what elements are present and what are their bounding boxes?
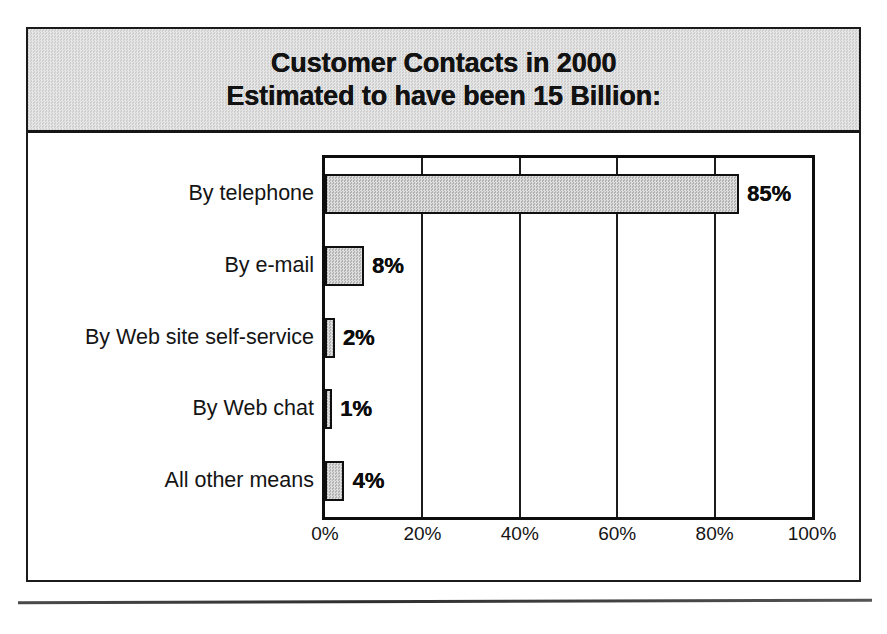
chart-title-line-1: Customer Contacts in 2000 — [271, 47, 617, 80]
page-rule-divider — [18, 599, 872, 605]
bar-value-label: 1% — [340, 398, 372, 420]
figure-frame: Customer Contacts in 2000 Estimated to h… — [26, 27, 861, 582]
bar-value-label: 2% — [343, 327, 375, 349]
chart-title-band: Customer Contacts in 2000 Estimated to h… — [28, 29, 859, 133]
category-label: All other means — [165, 470, 314, 492]
x-tick-label: 80% — [696, 524, 734, 543]
bar — [325, 318, 335, 358]
x-tick-label: 100% — [788, 524, 837, 543]
x-tick-label: 20% — [403, 524, 441, 543]
category-label: By Web site self-service — [85, 327, 314, 349]
category-label: By telephone — [188, 183, 314, 205]
chart-title-line-2: Estimated to have been 15 Billion: — [226, 80, 661, 113]
category-label: By e-mail — [224, 255, 314, 277]
bar-value-label: 85% — [747, 183, 791, 205]
plot-area: 85%8%2%1%4% — [322, 155, 815, 520]
bar — [325, 461, 344, 501]
bar — [325, 246, 364, 286]
category-axis-labels: By telephoneBy e-mailBy Web site self-se… — [28, 155, 314, 520]
bar — [325, 389, 332, 429]
bar-value-label: 8% — [372, 255, 404, 277]
x-tick-label: 60% — [598, 524, 636, 543]
bar-value-label: 4% — [352, 470, 384, 492]
x-tick-label: 40% — [501, 524, 539, 543]
value-axis-tick-labels: 0%20%40%60%80%100% — [322, 524, 815, 554]
x-tick-label: 0% — [311, 524, 338, 543]
category-label: By Web chat — [193, 399, 315, 421]
bar — [325, 174, 739, 214]
chart-body: By telephoneBy e-mailBy Web site self-se… — [28, 133, 859, 580]
